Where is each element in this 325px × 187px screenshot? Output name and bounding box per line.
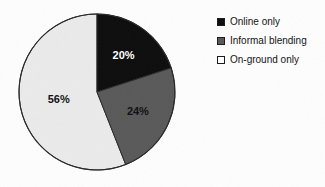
pie-label-on-ground-only: 56% xyxy=(48,93,70,105)
pie-label-online-only: 20% xyxy=(113,49,135,61)
legend: Online only Informal blending On-ground … xyxy=(217,16,323,73)
legend-label-on-ground-only: On-ground only xyxy=(230,54,299,66)
legend-label-online-only: Online only xyxy=(230,16,280,28)
legend-item-on-ground-only[interactable]: On-ground only xyxy=(217,54,323,66)
pie-svg xyxy=(18,13,176,171)
legend-swatch-icon-online-only xyxy=(217,18,225,26)
legend-swatch-icon-informal-blending xyxy=(217,37,225,45)
legend-label-informal-blending: Informal blending xyxy=(230,35,307,47)
pie-label-informal-blending: 24% xyxy=(127,105,149,117)
legend-item-online-only[interactable]: Online only xyxy=(217,16,323,28)
pie-chart-graphic: 20% 24% 56% xyxy=(18,13,176,171)
legend-swatch-icon-on-ground-only xyxy=(217,56,225,64)
pie-chart-figure: 20% 24% 56% Online only Informal blendin… xyxy=(0,0,325,187)
legend-item-informal-blending[interactable]: Informal blending xyxy=(217,35,323,47)
